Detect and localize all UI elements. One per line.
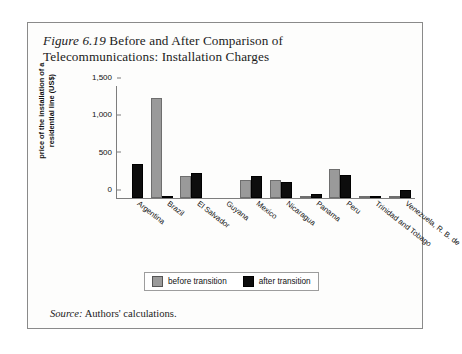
bar-after: [400, 190, 411, 198]
legend-swatch-after-icon: [243, 276, 254, 287]
bar-after: [162, 196, 173, 198]
bar-before: [359, 196, 370, 198]
x-axis-label: Argentina: [135, 199, 166, 226]
bar-before: [300, 196, 311, 198]
bar-group: [355, 86, 385, 198]
bar-group: [385, 86, 415, 198]
plot-area: 05001,0001,500: [116, 86, 415, 199]
bar-before: [389, 196, 400, 198]
y-axis-title: price of the installation of a residenti…: [37, 46, 56, 176]
x-axis-label: Peru: [344, 199, 362, 216]
chart-region: price of the installation of a residenti…: [28, 23, 424, 330]
x-axis-label: Nicaragua: [284, 199, 317, 227]
x-axis-label: Guyana: [225, 199, 252, 222]
bar-group: [177, 86, 207, 198]
bar-group: [326, 86, 356, 198]
bar-group: [266, 86, 296, 198]
bar-group: [147, 86, 177, 198]
bar-after: [340, 175, 351, 198]
bar-after: [251, 176, 262, 198]
x-axis-label: Mexico: [255, 199, 280, 221]
figure-frame: Figure 6.19 Before and After Comparison …: [27, 22, 423, 329]
source-text: Authors' calculations.: [85, 308, 177, 319]
bar-before: [151, 98, 162, 198]
bar-after: [191, 173, 202, 198]
bar-after: [281, 182, 292, 198]
bar-group: [296, 86, 326, 198]
legend-label-before: before transition: [168, 277, 227, 286]
bar-group: [236, 86, 266, 198]
y-axis-tick: 1,500: [92, 73, 117, 82]
y-axis-tick: 500: [99, 147, 117, 156]
bar-before: [180, 176, 191, 198]
bar-before: [240, 180, 251, 198]
source-label: Source:: [50, 308, 83, 319]
bar-group: [206, 86, 236, 198]
y-axis-tick: 0: [108, 185, 117, 194]
bar-before: [270, 180, 281, 198]
chart-legend: before transition after transition: [144, 272, 319, 291]
bar-after: [370, 196, 381, 198]
legend-label-after: after transition: [259, 277, 311, 286]
x-axis-label: Panama: [314, 199, 342, 224]
bar-after: [132, 164, 143, 198]
bar-series-container: [117, 86, 415, 198]
bar-after: [311, 194, 322, 198]
legend-item-after: after transition: [243, 276, 311, 287]
bar-before: [329, 169, 340, 198]
bar-group: [117, 86, 147, 198]
x-axis-label: Brazil: [165, 199, 186, 218]
y-axis-tick: 1,000: [92, 110, 117, 119]
legend-item-before: before transition: [152, 276, 227, 287]
legend-swatch-before-icon: [152, 276, 163, 287]
source-note: Source: Authors' calculations.: [50, 308, 177, 319]
